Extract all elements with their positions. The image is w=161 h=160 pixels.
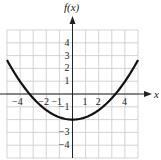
x-axis-label: x: [154, 89, 159, 99]
y-tick-label: 4: [56, 38, 70, 48]
x-tick-label: 4: [122, 97, 127, 107]
y-tick-label: −4: [56, 140, 70, 150]
y-axis-label: f(x): [64, 2, 79, 12]
y-tick-label: 1: [56, 76, 70, 86]
y-tick-label: −3: [56, 127, 70, 137]
y-tick-label: −1: [56, 102, 70, 112]
x-tick-label: 2: [96, 97, 101, 107]
x-tick-label: −2: [38, 97, 49, 107]
graph-canvas: [0, 0, 161, 160]
x-tick-label: 1: [83, 97, 88, 107]
y-tick-label: 2: [56, 63, 70, 73]
y-tick-label: 3: [56, 51, 70, 61]
x-tick-label: −4: [12, 97, 23, 107]
